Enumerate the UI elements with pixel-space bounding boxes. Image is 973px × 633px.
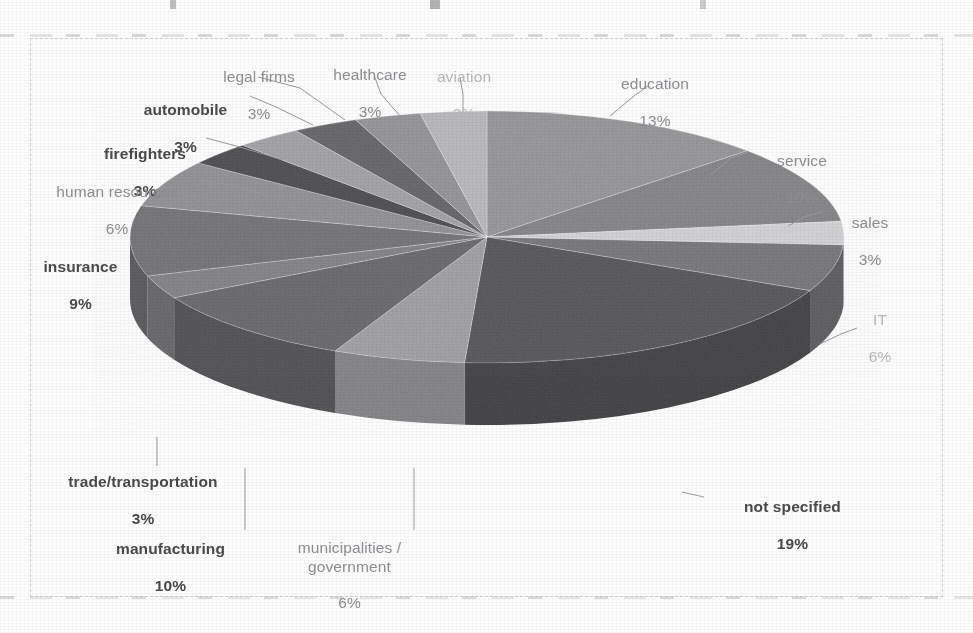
label-name: IT [845,311,915,329]
slice-label-insurance[interactable]: insurance 9% [18,240,143,331]
label-name: insurance [18,258,143,276]
chart-canvas: legal firms 3% healthcare 3% aviation 3%… [0,0,973,633]
label-name: manufacturing [88,540,253,558]
label-name: not specified [700,498,885,516]
label-percent: 3% [820,251,920,269]
slice-label-aviation[interactable]: aviation 3% [409,50,519,141]
label-percent: 6% [262,594,437,612]
label-percent: 9% [18,295,143,313]
label-percent: 6% [22,220,212,238]
label-name: education [590,75,720,93]
label-name: firefighters [80,145,210,163]
slice-label-not-specified[interactable]: not specified 19% [700,480,885,571]
slice-label-it[interactable]: IT 6% [845,293,915,384]
label-name: trade/transportation [28,473,258,491]
label-name: municipalities / government [262,539,437,576]
label-percent: 19% [700,535,885,553]
slice-label-education[interactable]: education 13% [590,57,720,148]
label-percent: 13% [590,112,720,130]
label-name: aviation [409,68,519,86]
label-percent: 10% [88,577,253,595]
label-name: service [742,152,862,170]
slice-label-municipalities-government[interactable]: municipalities / government 6% [262,521,437,631]
slice-label-sales[interactable]: sales 3% [820,196,920,287]
label-name: sales [820,214,920,232]
label-name: automobile [118,101,253,119]
label-percent: 6% [845,348,915,366]
label-percent: 3% [409,105,519,123]
label-name: human resources [22,183,212,201]
slice-label-manufacturing[interactable]: manufacturing 10% [88,522,253,613]
